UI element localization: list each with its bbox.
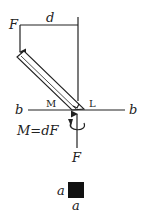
axis-left-label: b (15, 102, 23, 117)
force-top-label: F (8, 17, 19, 32)
distance-label: d (46, 10, 54, 25)
square-side-bottom-label: a (72, 198, 80, 213)
force-bottom-label: F (71, 150, 82, 165)
moment-equation: M=dF (16, 123, 60, 138)
point-m-label: M (46, 98, 56, 109)
diagram-canvas: F d b b M L M=dF F a a (0, 0, 144, 222)
axis-right-label: b (129, 102, 137, 117)
square-side-left-label: a (57, 183, 65, 198)
point-l-label: L (89, 98, 96, 109)
moment-curl-icon (68, 119, 84, 130)
square-element (68, 182, 84, 198)
